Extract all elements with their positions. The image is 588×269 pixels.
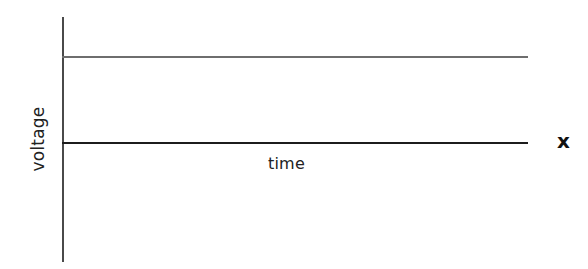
x-marker-label: x <box>557 130 570 152</box>
time-axis-label: time <box>268 154 305 173</box>
voltage-axis-label: voltage <box>30 107 47 172</box>
figure-canvas: voltage time x <box>0 0 588 269</box>
voltage-trace-line <box>62 56 528 58</box>
time-axis-line <box>62 142 528 144</box>
voltage-axis-line <box>62 17 64 262</box>
